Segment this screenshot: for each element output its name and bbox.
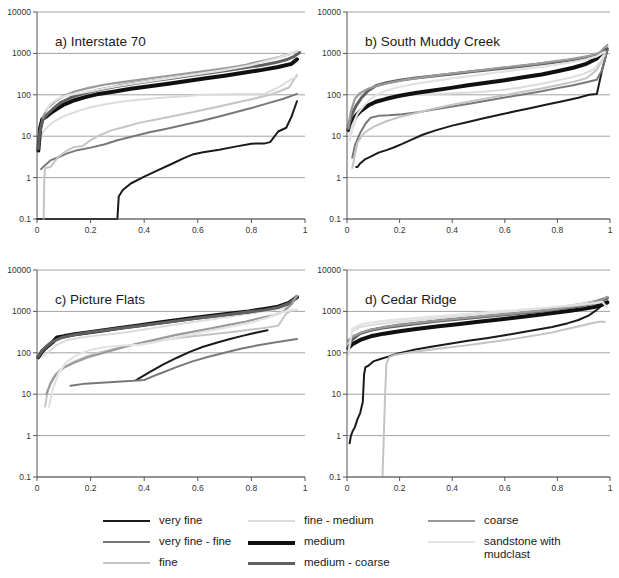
panel-title: a) Interstate 70	[55, 34, 146, 49]
series-line	[37, 101, 297, 219]
legend-line-swatch	[103, 562, 150, 564]
legend-item-label: medium	[295, 535, 345, 548]
y-axis-tick-label: 10000	[317, 7, 341, 17]
x-axis-tick-label: 0.4	[446, 483, 458, 493]
x-axis-tick-label: 0	[345, 225, 350, 235]
legend-line-swatch	[103, 520, 150, 522]
legend-item-label: medium - coarse	[295, 556, 390, 569]
figure-container: 1000010001001010.100.20.40.60.81a) Inter…	[0, 0, 619, 578]
legend-line-swatch	[248, 520, 295, 522]
x-axis-tick-label: 0.6	[192, 483, 204, 493]
series-line	[348, 49, 607, 129]
legend-item: fine - medium	[248, 512, 418, 533]
x-axis-tick-label: 0.8	[551, 483, 563, 493]
panel-a: 1000010001001010.100.20.40.60.81a) Inter…	[0, 0, 310, 250]
x-axis-tick-label: 0	[35, 483, 40, 493]
y-axis-tick-label: 10	[22, 131, 32, 141]
y-axis-tick-label: 10000	[7, 265, 31, 275]
legend-item: medium - coarse	[248, 554, 418, 575]
y-axis-tick-label: 10	[22, 389, 32, 399]
legend-column-1: very finevery fine - finefine	[103, 512, 253, 575]
legend-item-label: fine - medium	[295, 514, 374, 527]
legend-item: coarse	[428, 512, 608, 533]
y-axis-tick-label: 0.1	[329, 214, 341, 224]
legend: very finevery fine - finefine fine - med…	[0, 512, 619, 578]
panel-d: 1000010001001010.100.20.40.60.81d) Cedar…	[310, 258, 619, 508]
legend-item: very fine	[103, 512, 253, 533]
panel-b-chart: 1000010001001010.100.20.40.60.81b) South…	[310, 0, 619, 250]
x-axis-tick-label: 0.8	[245, 483, 257, 493]
x-axis-tick-label: 0.8	[551, 225, 563, 235]
legend-item: medium	[248, 533, 418, 554]
legend-line-swatch	[248, 541, 295, 545]
legend-item: sandstone with mudclast	[428, 533, 608, 554]
x-axis-tick-label: 0.4	[138, 483, 150, 493]
y-axis-tick-label: 100	[327, 90, 341, 100]
y-axis-tick-label: 0.1	[19, 214, 31, 224]
y-axis-tick-label: 10	[332, 389, 342, 399]
panel-c: 1000010001001010.100.20.40.60.81c) Pictu…	[0, 258, 310, 508]
panel-title: d) Cedar Ridge	[365, 292, 457, 307]
y-axis-tick-label: 1	[26, 173, 31, 183]
panel-a-chart: 1000010001001010.100.20.40.60.81a) Inter…	[0, 0, 310, 250]
series-line	[348, 302, 607, 348]
panel-d-chart: 1000010001001010.100.20.40.60.81d) Cedar…	[310, 258, 619, 508]
y-axis-tick-label: 1000	[322, 48, 341, 58]
x-axis-tick-label: 1	[303, 225, 308, 235]
panel-title: c) Picture Flats	[55, 292, 145, 307]
y-axis-tick-label: 10000	[7, 7, 31, 17]
y-axis-tick-label: 0.1	[329, 472, 341, 482]
series-line	[41, 94, 297, 169]
legend-line-swatch	[103, 541, 150, 543]
y-axis-tick-label: 1000	[12, 306, 31, 316]
legend-column-3: coarsesandstone with mudclast	[428, 512, 608, 554]
legend-line-swatch	[428, 520, 475, 522]
series-line	[352, 50, 607, 158]
panel-title: b) South Muddy Creek	[365, 34, 500, 49]
x-axis-tick-label: 1	[608, 483, 613, 493]
y-axis-tick-label: 10000	[317, 265, 341, 275]
panel-b: 1000010001001010.100.20.40.60.81b) South…	[310, 0, 619, 250]
x-axis-tick-label: 0	[35, 225, 40, 235]
x-axis-tick-label: 0.6	[499, 483, 511, 493]
legend-item: very fine - fine	[103, 533, 253, 554]
legend-item-label: very fine - fine	[150, 535, 231, 548]
x-axis-tick-label: 1	[608, 225, 613, 235]
x-axis-tick-label: 0.4	[138, 225, 150, 235]
y-axis-tick-label: 100	[17, 348, 31, 358]
y-axis-tick-label: 0.1	[19, 472, 31, 482]
series-line	[350, 52, 605, 137]
panel-c-chart: 1000010001001010.100.20.40.60.81c) Pictu…	[0, 258, 310, 508]
legend-column-2: fine - mediummediummedium - coarse	[248, 512, 418, 575]
legend-item-label: sandstone with mudclast	[475, 535, 561, 561]
series-line	[136, 330, 267, 380]
legend-item-label: fine	[150, 556, 178, 569]
y-axis-tick-label: 10	[332, 131, 342, 141]
y-axis-tick-label: 100	[17, 90, 31, 100]
x-axis-tick-label: 0.2	[85, 225, 97, 235]
legend-line-swatch	[428, 541, 475, 543]
x-axis-tick-label: 0.4	[446, 225, 458, 235]
y-axis-tick-label: 1	[336, 173, 341, 183]
series-line	[38, 59, 297, 150]
x-axis-tick-label: 0.8	[245, 225, 257, 235]
series-line	[71, 339, 297, 386]
series-line	[383, 322, 605, 477]
series-line	[38, 77, 297, 149]
legend-line-swatch	[248, 562, 295, 565]
y-axis-tick-label: 1	[336, 431, 341, 441]
legend-item-label: very fine	[150, 514, 202, 527]
x-axis-tick-label: 0.2	[394, 225, 406, 235]
x-axis-tick-label: 0.2	[394, 483, 406, 493]
y-axis-tick-label: 1000	[12, 48, 31, 58]
x-axis-tick-label: 0.2	[85, 483, 97, 493]
x-axis-tick-label: 1	[303, 483, 308, 493]
x-axis-tick-label: 0.6	[192, 225, 204, 235]
y-axis-tick-label: 1000	[322, 306, 341, 316]
y-axis-tick-label: 100	[327, 348, 341, 358]
legend-item-label: coarse	[475, 514, 519, 527]
series-line	[45, 51, 297, 111]
legend-item: fine	[103, 554, 253, 575]
y-axis-tick-label: 1	[26, 431, 31, 441]
x-axis-tick-label: 0	[345, 483, 350, 493]
